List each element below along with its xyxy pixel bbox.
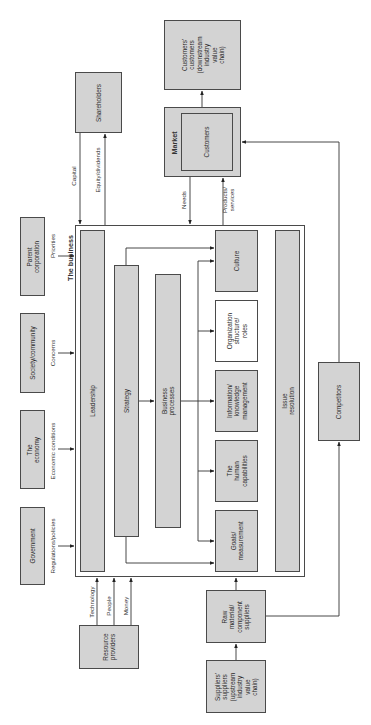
- suppliers-suppliers-box: Suppliers' suppliers (upstream industry …: [206, 660, 266, 713]
- customers-box: Customers: [181, 113, 233, 171]
- suppliers-suppliers-label: Suppliers' suppliers (upstream industry …: [214, 672, 258, 701]
- customers-customers-box: Customers' customers (downstream industr…: [164, 20, 241, 90]
- government-label: Government: [29, 528, 36, 563]
- government-box: Government: [20, 507, 45, 585]
- customers-label: Customers: [203, 127, 210, 158]
- society-community-box: Society/community: [20, 313, 45, 393]
- flow-label-products-services: Products/ services: [221, 187, 235, 213]
- flow-label-capital: Capital: [70, 166, 77, 185]
- business-processes-box: Business processes: [155, 274, 181, 528]
- issue-resolution-box: Issue resolution: [275, 230, 300, 572]
- society-community-label: Society/community: [29, 326, 36, 380]
- shareholders-label: Shareholders: [95, 83, 102, 121]
- flow-label-economic-conditions: Economic conditions: [49, 423, 56, 480]
- goals-measurement-label: Goals/ measurement: [229, 521, 244, 560]
- goals-measurement-box: Goals/ measurement: [215, 510, 258, 572]
- flow-label-priorities: Priorities: [49, 234, 56, 258]
- flow-label-technology: Technology: [88, 586, 95, 617]
- flow-label-people: People: [105, 596, 112, 615]
- information-management-label: Information/ knowledge management: [225, 382, 247, 419]
- shareholders-box: Shareholders: [75, 72, 122, 133]
- flow-label-equity-dividends: Equity/dividends: [94, 147, 101, 192]
- flow-label-needs: Needs: [180, 191, 187, 209]
- parent-corporation-label: Parent corporation: [25, 241, 40, 273]
- flow-label-regulations-policies: Regulations/policies: [49, 518, 56, 573]
- resource-providers-box: Resource providers: [79, 625, 139, 669]
- parent-corporation-box: Parent corporation: [20, 217, 45, 296]
- strategy-label: Strategy: [123, 389, 130, 413]
- leadership-label: Leadership: [89, 385, 96, 417]
- customers-customers-label: Customers' customers (downstream industr…: [180, 36, 224, 74]
- business-container: [75, 225, 305, 577]
- resource-providers-label: Resource providers: [102, 633, 117, 660]
- raw-material-suppliers-label: Raw material/ component suppliers: [221, 601, 251, 633]
- market-box: Market Customers: [164, 107, 241, 177]
- flow-label-concerns: Concerns: [49, 340, 56, 366]
- business-title: The business: [67, 235, 74, 281]
- leadership-box: Leadership: [80, 230, 105, 572]
- human-capabilities-label: The human capabilities: [225, 455, 247, 487]
- strategy-box: Strategy: [114, 265, 139, 537]
- issue-resolution-label: Issue resolution: [280, 387, 295, 415]
- competitors-label: Competitors: [335, 384, 342, 418]
- information-management-box: Information/ knowledge management: [215, 370, 258, 432]
- market-label: Market: [171, 131, 178, 154]
- human-capabilities-box: The human capabilities: [215, 440, 258, 502]
- organization-structure-box: Organization structure/ roles: [215, 300, 258, 362]
- business-processes-label: Business processes: [161, 386, 176, 415]
- economy-label: The economy: [25, 437, 40, 463]
- flow-label-money: Money: [122, 597, 129, 616]
- culture-label: Culture: [233, 251, 240, 272]
- culture-box: Culture: [215, 230, 258, 292]
- competitors-box: Competitors: [318, 362, 360, 441]
- organization-structure-label: Organization structure/ roles: [225, 313, 247, 349]
- economy-box: The economy: [20, 410, 45, 489]
- raw-material-suppliers-box: Raw material/ component suppliers: [206, 590, 266, 643]
